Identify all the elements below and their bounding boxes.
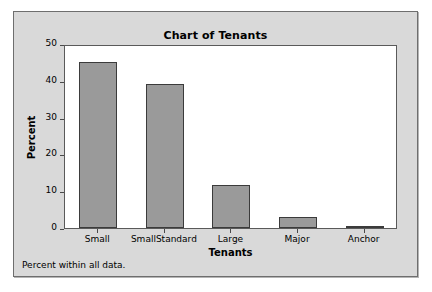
y-axis-tick-label: 0 <box>51 222 57 232</box>
y-axis-tick-label: 20 <box>46 148 57 158</box>
x-axis-tick-mark <box>97 229 98 233</box>
x-axis-tick-mark <box>164 229 165 233</box>
bar-major[interactable] <box>279 217 317 228</box>
bars-layer <box>65 46 396 228</box>
bar-slot <box>132 46 199 228</box>
plot-area <box>64 45 397 229</box>
x-axis-tick-mark <box>297 229 298 233</box>
bar-small[interactable] <box>79 62 117 228</box>
x-axis-tick-mark <box>364 229 365 233</box>
x-axis-tick-label: Anchor <box>330 234 397 244</box>
y-axis: 01020304050 <box>14 45 64 229</box>
x-axis-tick-label: Major <box>264 234 331 244</box>
x-axis-tick-label: Small <box>64 234 131 244</box>
bar-slot <box>265 46 332 228</box>
chart-footnote: Percent within all data. <box>22 260 125 270</box>
y-axis-tick-label: 40 <box>46 75 57 85</box>
x-axis-tick-mark <box>230 229 231 233</box>
bar-anchor[interactable] <box>346 226 384 228</box>
x-axis-title: Tenants <box>64 247 397 258</box>
x-axis-tick-label: SmallStandard <box>131 234 198 244</box>
bar-large[interactable] <box>212 185 250 228</box>
bar-slot <box>331 46 398 228</box>
y-axis-tick-label: 10 <box>46 185 57 195</box>
bar-slot <box>65 46 132 228</box>
chart-title: Chart of Tenants <box>14 29 417 42</box>
y-axis-tick-label: 50 <box>46 38 57 48</box>
x-axis-tick-label: Large <box>197 234 264 244</box>
y-axis-tick-label: 30 <box>46 112 57 122</box>
chart-window: Chart of Tenants Percent 01020304050 Sma… <box>13 11 418 277</box>
bar-smallstandard[interactable] <box>146 84 184 228</box>
bar-slot <box>198 46 265 228</box>
